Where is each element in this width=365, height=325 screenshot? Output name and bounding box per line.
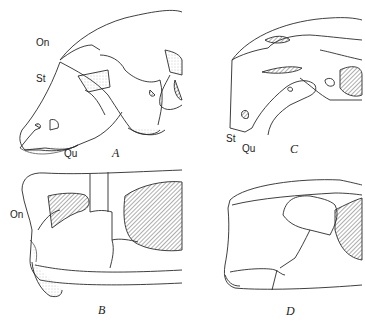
panel-c-drawing [230,18,362,135]
label-qu-panel-a: Qu [64,149,77,159]
label-qu-panel-c: Qu [242,144,255,154]
label-st-panel-a: St [36,74,45,84]
label-st-panel-c: St [226,134,235,144]
figure-drawing [0,0,365,325]
label-on-panel-b: On [10,210,23,220]
panel-label-b: B [98,304,105,316]
label-on-panel-a: On [36,38,49,48]
panel-label-d: D [286,305,295,317]
panel-label-c: C [290,143,298,155]
panel-label-a: A [112,147,119,159]
panel-d-drawing [224,180,362,290]
panel-b-drawing [22,170,182,297]
